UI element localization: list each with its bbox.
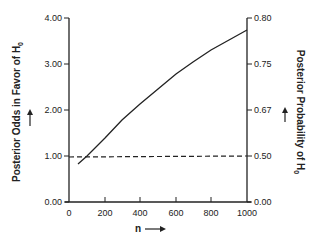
- x-tick-label: 200: [97, 208, 112, 218]
- up-arrow-icon: [27, 109, 33, 126]
- right-axis-label: Posterior Probability of H0: [293, 50, 306, 175]
- right-arrow-icon: [145, 226, 166, 232]
- right-tick-label: 0.50: [254, 151, 272, 161]
- right-tick-label: 0.67: [254, 105, 272, 115]
- left-axis-label: Posterior Odds in Favor of H0: [11, 42, 24, 182]
- x-tick-label: 600: [168, 208, 183, 218]
- svg-text:Posterior Odds in Favor of H0: Posterior Odds in Favor of H0: [11, 42, 24, 182]
- x-tick-label: 400: [132, 208, 147, 218]
- left-ticks: 0.00 1.00 2.00 3.00 4.00: [44, 13, 69, 207]
- up-arrow-icon: [282, 107, 288, 122]
- left-tick-label: 2.00: [44, 105, 62, 115]
- right-ticks: 0.00 0.50 0.67 0.75 0.80: [247, 13, 272, 207]
- left-tick-label: 4.00: [44, 13, 62, 23]
- right-tick-label: 0.80: [254, 13, 272, 23]
- reference-line: [69, 156, 247, 157]
- x-tick-label: 0: [66, 208, 71, 218]
- left-tick-label: 3.00: [44, 59, 62, 69]
- x-tick-label: 800: [203, 208, 218, 218]
- left-tick-label: 0.00: [44, 197, 62, 207]
- chart: 0.00 1.00 2.00 3.00 4.00 0.00 0.50 0.67 …: [0, 0, 310, 243]
- x-tick-label: 1000: [237, 208, 257, 218]
- right-tick-label: 0.75: [254, 59, 272, 69]
- left-tick-label: 1.00: [44, 151, 62, 161]
- x-axis-label: n: [135, 223, 141, 234]
- right-tick-label: 0.00: [254, 197, 272, 207]
- svg-text:Posterior Probability of H0: Posterior Probability of H0: [293, 50, 306, 175]
- x-ticks: 0 200 400 600 800 1000: [66, 197, 257, 218]
- posterior-odds-curve: [78, 30, 247, 164]
